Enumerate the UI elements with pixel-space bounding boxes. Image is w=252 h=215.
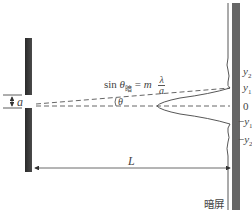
- label-neg-y2: −y2: [238, 134, 252, 148]
- angle-arc: [115, 98, 116, 106]
- label-neg-y1: −y1: [238, 116, 252, 130]
- label-zero: 0: [243, 101, 249, 112]
- formula-equals: =: [135, 78, 141, 90]
- diffraction-diagram: [0, 0, 252, 215]
- dark-fringe-formula: sin θ暗 = m λ a: [104, 75, 165, 96]
- formula-subscript: 暗: [125, 85, 132, 93]
- angle-label: θ: [118, 97, 123, 107]
- screen-label: 暗屏: [204, 196, 224, 211]
- slit-top-plate: [25, 38, 32, 95]
- formula-m: m: [144, 78, 152, 90]
- distance-label: L: [128, 155, 135, 167]
- screen: [232, 3, 240, 210]
- formula-a: a: [158, 86, 164, 96]
- intensity-curve: [157, 3, 230, 210]
- slit-width-label: a: [17, 96, 23, 108]
- slit-bottom-plate: [25, 108, 32, 172]
- label-y2: y2: [243, 66, 251, 80]
- label-y1: y1: [243, 82, 251, 96]
- formula-sin: sin: [104, 78, 117, 90]
- formula-fraction: λ a: [158, 75, 164, 96]
